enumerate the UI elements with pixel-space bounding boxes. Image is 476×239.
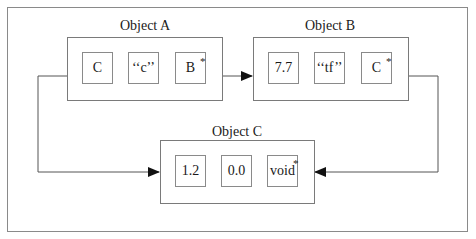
object-b-field-2: ‘‘tf’’	[314, 52, 345, 84]
object-b-field-1: 7.7	[268, 52, 299, 84]
object-c-field-2: 0.0	[221, 155, 252, 187]
object-b-label: Object B	[270, 18, 390, 34]
object-c-label: Object C	[177, 124, 297, 140]
object-c-field-1: 1.2	[175, 155, 206, 187]
pointer-asterisk-icon: *	[200, 56, 206, 66]
pointer-asterisk-icon: *	[293, 158, 299, 168]
object-a-field-1: C	[82, 52, 113, 84]
object-a-field-2: ‘‘c’’	[128, 52, 159, 84]
object-a-label: Object A	[85, 18, 205, 34]
pointer-asterisk-icon: *	[386, 56, 392, 66]
